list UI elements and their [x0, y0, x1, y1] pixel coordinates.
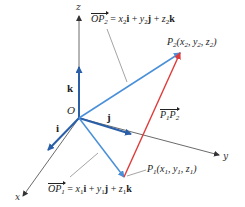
- op1-vector-notation: OP1: [48, 184, 65, 196]
- j-label: j: [107, 112, 111, 123]
- p2-label: P2(x2, y2, z2): [167, 37, 217, 49]
- p1p2-label: P1P2: [160, 110, 179, 122]
- k-label: k: [67, 83, 73, 94]
- z-axis-label: z: [76, 3, 81, 12]
- x-axis-label: x: [15, 193, 20, 202]
- i-unit-vector: [48, 118, 79, 150]
- j-unit-vector: [79, 118, 131, 134]
- i-label: i: [56, 123, 59, 134]
- origin-label: O: [67, 106, 75, 116]
- p1-leader: [127, 170, 146, 176]
- op1-vector: [79, 118, 124, 177]
- op2-equation: OP2 = x2i + y2j + z2k: [91, 14, 175, 26]
- op2-leader: [107, 29, 127, 82]
- vector-diagram: [0, 0, 245, 207]
- p1-label: P1(x1, y1, z1): [147, 164, 197, 176]
- op1-leader: [70, 153, 98, 177]
- op1-equation: OP1 = x1i + y1j + z1k: [48, 184, 132, 196]
- op2-vector-notation: OP2: [91, 14, 108, 26]
- y-axis-label: y: [223, 152, 228, 161]
